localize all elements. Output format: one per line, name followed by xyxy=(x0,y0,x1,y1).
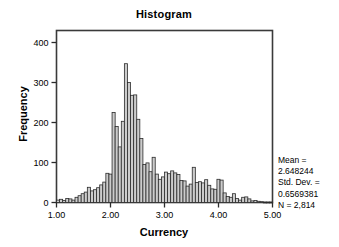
stat-sd-label: Std. Dev. = xyxy=(278,177,320,188)
histogram-bar xyxy=(87,187,90,202)
y-axis-tick-label: 100 xyxy=(33,158,48,168)
histogram-bar xyxy=(189,184,192,202)
histogram-bar xyxy=(192,167,195,202)
histogram-bar xyxy=(140,139,143,203)
histogram-bar xyxy=(112,113,115,203)
histogram-bar xyxy=(205,180,208,203)
histogram-bar xyxy=(242,197,245,202)
histogram-bar xyxy=(168,174,171,203)
histogram-bar xyxy=(78,196,81,203)
histogram-bar xyxy=(198,182,201,203)
y-axis-tick-label: 300 xyxy=(33,78,48,88)
histogram-bar xyxy=(257,201,260,202)
histogram-bar xyxy=(57,200,60,202)
histogram-bar xyxy=(254,201,257,203)
histogram-bar xyxy=(109,174,112,202)
histogram-bar xyxy=(90,191,93,203)
statistics-annotation: Mean = 2.648244 Std. Dev. = 0.6569381 N … xyxy=(278,155,320,211)
histogram-bar xyxy=(66,199,69,203)
stat-n-value: N = 2,814 xyxy=(278,200,320,211)
histogram-bar xyxy=(214,189,217,202)
histogram-bar xyxy=(177,175,180,203)
histogram-bar xyxy=(149,172,152,203)
histogram-bar xyxy=(155,174,158,202)
histogram-bar xyxy=(131,95,134,202)
stat-sd-value: 0.6569381 xyxy=(278,189,320,200)
histogram-bar xyxy=(124,64,127,203)
histogram-bar xyxy=(171,171,174,203)
histogram-bar xyxy=(75,197,78,202)
histogram-bar xyxy=(211,189,214,203)
histogram-bar xyxy=(118,147,121,203)
histogram-bar xyxy=(100,185,103,203)
histogram-bar xyxy=(115,127,118,203)
histogram-bar xyxy=(81,194,84,203)
histogram-bar xyxy=(134,95,137,203)
histogram-bar xyxy=(63,201,66,203)
histogram-figure: Histogram 1.002.003.004.005.000100200300… xyxy=(0,0,339,247)
x-axis-tick-label: 1.00 xyxy=(48,210,66,220)
histogram-bar xyxy=(106,173,109,202)
histogram-bar xyxy=(127,83,130,203)
histogram-bar xyxy=(60,199,63,202)
histogram-bar xyxy=(121,121,124,202)
histogram-bar xyxy=(152,157,155,202)
histogram-bar xyxy=(146,163,149,203)
stat-mean-value: 2.648244 xyxy=(278,166,320,177)
histogram-bar xyxy=(103,182,106,202)
histogram-bar xyxy=(239,200,242,202)
histogram-bar xyxy=(248,199,251,203)
histogram-bar xyxy=(137,119,140,202)
histogram-bar xyxy=(195,183,198,203)
histogram-bar xyxy=(220,180,223,202)
histogram-bar xyxy=(263,202,266,203)
histogram-bar xyxy=(229,197,232,202)
histogram-bar xyxy=(260,202,263,203)
x-axis-tick-label: 4.00 xyxy=(210,210,228,220)
bar-series xyxy=(57,64,273,203)
x-axis-title: Currency xyxy=(56,226,272,238)
histogram-bar xyxy=(217,179,220,202)
stat-mean-label: Mean = xyxy=(278,155,320,166)
histogram-bar xyxy=(183,181,186,203)
histogram-bar xyxy=(97,188,100,203)
histogram-bar xyxy=(158,179,161,202)
histogram-bar xyxy=(235,199,238,203)
histogram-bar xyxy=(84,192,87,202)
chart-title: Histogram xyxy=(56,8,272,20)
histogram-bar xyxy=(186,186,189,202)
histogram-bar xyxy=(226,197,229,203)
histogram-bar xyxy=(202,183,205,203)
histogram-bar xyxy=(143,165,146,203)
x-axis-tick-label: 3.00 xyxy=(156,210,174,220)
y-axis-title: Frequency xyxy=(17,54,29,174)
y-axis-tick-label: 400 xyxy=(33,38,48,48)
y-axis-tick-label: 200 xyxy=(33,118,48,128)
histogram-bar xyxy=(174,173,177,203)
histogram-bar xyxy=(72,200,75,202)
histogram-bar xyxy=(94,190,97,203)
histogram-bar xyxy=(180,181,183,203)
x-axis-tick-label: 2.00 xyxy=(102,210,120,220)
histogram-bar xyxy=(161,177,164,203)
histogram-bar xyxy=(69,199,72,203)
histogram-bar xyxy=(251,201,254,203)
histogram-bar xyxy=(223,193,226,203)
histogram-bar xyxy=(165,172,168,202)
histogram-bar xyxy=(266,202,269,203)
histogram-bar xyxy=(245,197,248,203)
y-axis-tick-label: 0 xyxy=(43,198,48,208)
histogram-bar xyxy=(232,194,235,203)
histogram-bar xyxy=(208,185,211,202)
